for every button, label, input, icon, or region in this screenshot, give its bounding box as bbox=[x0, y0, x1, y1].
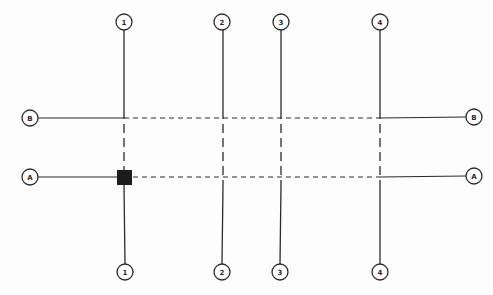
grid-bubble-label: 4 bbox=[378, 19, 383, 27]
grid-bubble-left-B: B bbox=[22, 110, 38, 126]
vertical-grid-line-2 bbox=[222, 30, 223, 264]
grid-bubble-top-4: 4 bbox=[372, 14, 388, 30]
horizontal-grid-line-B bbox=[38, 117, 466, 118]
grid-bubble-label: 2 bbox=[220, 269, 225, 277]
grid-bubble-bottom-3: 3 bbox=[272, 264, 288, 280]
grid-bubble-label: A bbox=[471, 173, 477, 181]
grid-bubble-label: 1 bbox=[123, 269, 128, 277]
grid-diagram: 12341234BABA bbox=[0, 0, 493, 295]
grid-bubble-right-A: A bbox=[466, 168, 482, 184]
grid-bubble-top-3: 3 bbox=[273, 14, 289, 30]
grid-bubble-label: A bbox=[27, 174, 33, 182]
vertical-grid-line-3 bbox=[280, 30, 281, 264]
grid-bubble-label: 3 bbox=[278, 269, 283, 277]
grid-bubble-label: 1 bbox=[122, 19, 127, 27]
horizontal-grid-lines bbox=[38, 117, 466, 177]
vertical-grid-lines bbox=[124, 30, 380, 264]
grid-bubble-top-2: 2 bbox=[214, 14, 230, 30]
grid-bubbles: 12341234BABA bbox=[22, 14, 482, 280]
grid-bubble-bottom-2: 2 bbox=[214, 264, 230, 280]
horizontal-grid-line-A bbox=[38, 176, 466, 177]
column-marker-square bbox=[117, 170, 132, 185]
grid-bubble-left-A: A bbox=[22, 169, 38, 185]
grid-bubble-right-B: B bbox=[466, 109, 482, 125]
grid-bubble-bottom-1: 1 bbox=[117, 264, 133, 280]
grid-bubble-label: B bbox=[27, 115, 32, 123]
grid-bubble-bottom-4: 4 bbox=[372, 264, 388, 280]
grid-bubble-top-1: 1 bbox=[116, 14, 132, 30]
vertical-grid-line-1 bbox=[124, 30, 125, 264]
grid-bubble-label: 3 bbox=[279, 19, 284, 27]
grid-diagram-svg: 12341234BABA bbox=[0, 0, 493, 295]
grid-bubble-label: 4 bbox=[378, 269, 383, 277]
grid-bubble-label: B bbox=[471, 114, 476, 122]
grid-bubble-label: 2 bbox=[220, 19, 225, 27]
